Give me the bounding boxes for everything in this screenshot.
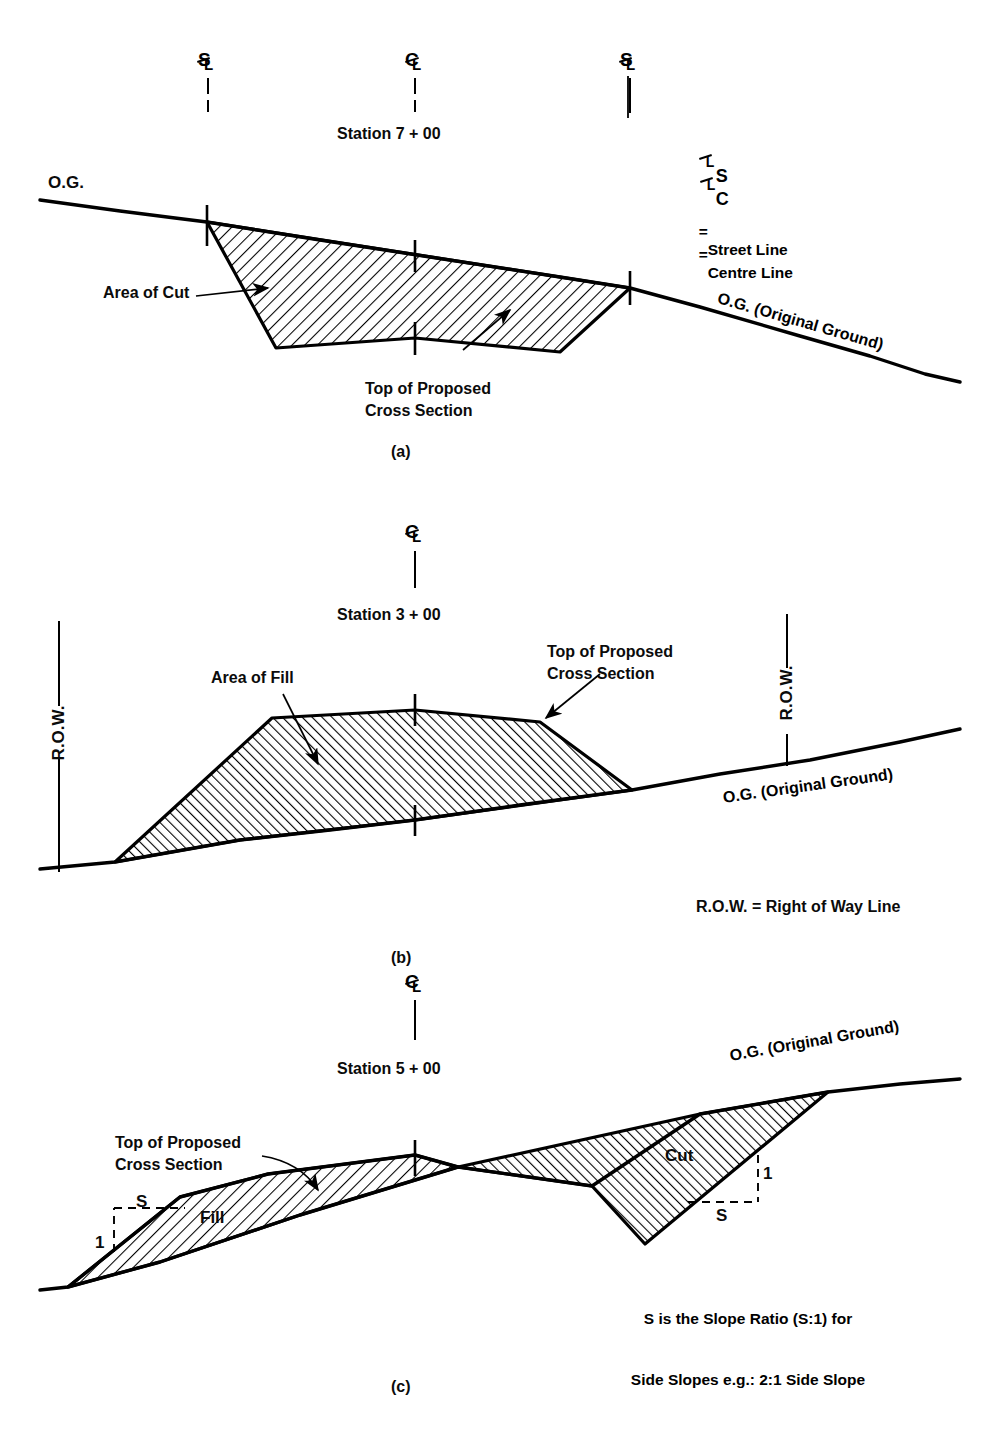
centre-line-symbol-a: CL [405,50,419,69]
legend-centre-glyph: C [716,189,729,209]
slope-note-line1: S is the Slope Ratio (S:1) for [553,1309,943,1329]
street-line-symbol-left-a: SL [198,50,211,69]
slope-s-label-left-c: S [136,1192,147,1212]
station-label-c: Station 5 + 00 [337,1060,441,1078]
centre-line-symbol-b: CL [405,522,419,541]
top-section-label-a-line1: Top of Proposed [365,380,491,398]
row-note-label: R.O.W. = Right of Way Line [696,898,900,916]
street-line-symbol-right-a: SL [620,50,633,69]
area-of-fill-region [115,710,632,862]
slope-one-label-right-c: 1 [763,1164,772,1184]
centre-line-symbol-c: CL [405,972,419,991]
slope-s-label-right-c: S [716,1206,727,1226]
figure-canvas [0,0,995,1431]
panel-b-graphics [40,551,960,872]
area-of-fill-label: Area of Fill [211,669,294,687]
fill-label-c: Fill [200,1208,225,1228]
original-ground-line-c [40,1079,960,1290]
station-label-b: Station 3 + 00 [337,606,441,624]
cut-label-c: Cut [665,1146,693,1166]
area-of-cut-region [207,222,630,352]
station-label-a: Station 7 + 00 [337,125,441,143]
top-section-label-a-line2: Cross Section [365,402,473,420]
top-section-label-c-line2: Cross Section [115,1156,223,1174]
top-section-label-c-line1: Top of Proposed [115,1134,241,1152]
slope-ratio-note: S is the Slope Ratio (S:1) for Side Slop… [553,1269,943,1431]
legend-label-centre-line: Centre Line [708,264,793,281]
slope-note-line2: Side Slopes e.g.: 2:1 Side Slope [553,1370,943,1390]
top-section-label-b-line1: Top of Proposed [547,643,673,661]
slope-one-label-left-c: 1 [95,1233,104,1253]
row-label-left-b: R.O.W. [49,683,69,783]
top-section-label-b-line2: Cross Section [547,665,655,683]
panel-id-c: (c) [391,1378,411,1396]
row-label-right-b: R.O.W. [777,643,797,743]
og-short-label-a: O.G. [48,173,84,193]
panel-id-a: (a) [391,443,411,461]
panel-id-b: (b) [391,949,411,967]
cut-region-c [458,1092,828,1244]
cross-section-drawing [0,0,995,1431]
legend-equals-centre: = [699,246,708,263]
area-of-cut-label: Area of Cut [103,284,189,302]
legend-row-centre-line: CL = Centre Line [690,153,793,282]
